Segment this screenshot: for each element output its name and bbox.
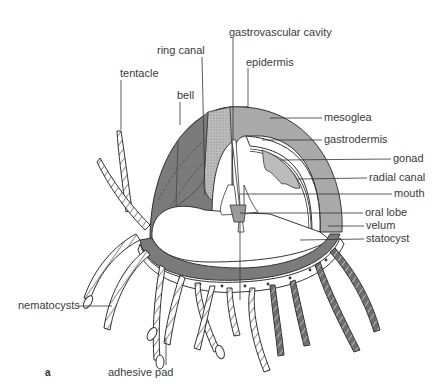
label-epidermis: epidermis (246, 56, 294, 68)
label-bell: bell (177, 89, 194, 101)
label-mouth: mouth (394, 187, 425, 199)
label-statocyst: statocyst (366, 232, 409, 244)
label-gastrovascular-cavity: gastrovascular cavity (229, 26, 332, 38)
label-velum: velum (366, 219, 395, 231)
label-gonad: gonad (393, 152, 424, 164)
label-radial-canal: radial canal (369, 171, 425, 183)
jellyfish-diagram (0, 0, 437, 390)
label-ring-canal: ring canal (157, 44, 205, 56)
label-gastrodermis: gastrodermis (324, 133, 388, 145)
label-oral-lobe: oral lobe (365, 206, 407, 218)
label-tentacle: tentacle (120, 67, 159, 79)
label-adhesive-pad: adhesive pad (108, 366, 173, 378)
panel-label: a (45, 367, 51, 378)
label-nematocysts: nematocysts (18, 299, 80, 311)
label-mesoglea: mesoglea (324, 111, 372, 123)
